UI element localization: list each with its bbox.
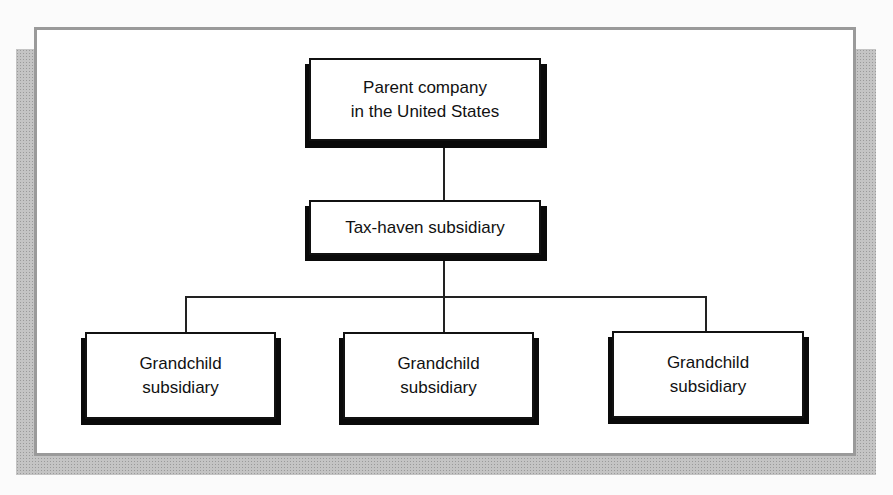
- box-face: Grandchild subsidiary: [612, 331, 804, 418]
- node-label-line1: Parent company: [363, 76, 487, 100]
- node-label-line1: Grandchild: [397, 352, 479, 376]
- connector-to-grandchild-1: [185, 296, 187, 333]
- node-grandchild-subsidiary-3: Grandchild subsidiary: [608, 331, 809, 424]
- node-label: Tax-haven subsidiary: [345, 216, 505, 240]
- connector-parent-to-taxhaven: [443, 140, 445, 201]
- node-label-line2: subsidiary: [400, 376, 477, 400]
- node-tax-haven-subsidiary: Tax-haven subsidiary: [305, 200, 547, 261]
- node-label-line1: Grandchild: [667, 351, 749, 375]
- box-face: Parent company in the United States: [309, 58, 541, 141]
- box-face: Grandchild subsidiary: [343, 332, 534, 419]
- node-label-line2: in the United States: [351, 100, 499, 124]
- node-grandchild-subsidiary-2: Grandchild subsidiary: [339, 332, 539, 425]
- node-parent-company: Parent company in the United States: [305, 58, 547, 148]
- box-face: Grandchild subsidiary: [85, 332, 276, 419]
- node-label-line2: subsidiary: [670, 375, 747, 399]
- box-face: Tax-haven subsidiary: [309, 200, 541, 255]
- node-label-line2: subsidiary: [142, 376, 219, 400]
- connector-to-grandchild-3: [705, 296, 707, 332]
- node-grandchild-subsidiary-1: Grandchild subsidiary: [81, 332, 281, 425]
- node-label-line1: Grandchild: [139, 352, 221, 376]
- connector-horizontal-bus: [185, 296, 706, 298]
